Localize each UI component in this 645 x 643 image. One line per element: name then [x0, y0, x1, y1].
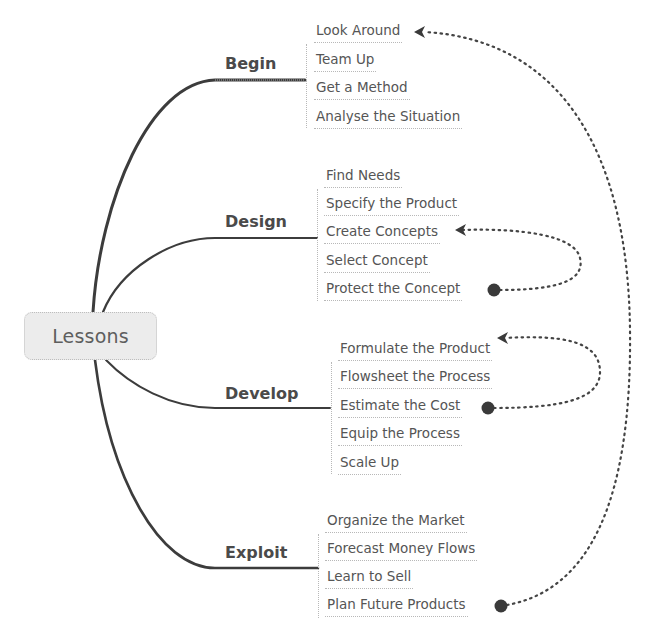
arrowhead-icon [497, 332, 508, 344]
topic-learn-to-sell[interactable]: Learn to Sell [325, 567, 413, 589]
topic-analyse-situation[interactable]: Analyse the Situation [314, 107, 462, 129]
topic-get-a-method[interactable]: Get a Method [314, 78, 410, 100]
arrowhead-icon [414, 26, 425, 38]
topic-team-up[interactable]: Team Up [314, 50, 376, 72]
root-label: Lessons [52, 325, 129, 347]
branch-develop[interactable]: Develop [225, 384, 298, 403]
topic-specify-product[interactable]: Specify the Product [324, 194, 459, 216]
relationship-start-dot [495, 600, 508, 613]
branch-exploit[interactable]: Exploit [225, 543, 287, 562]
relationship-develop-loop [494, 337, 600, 408]
relationship-start-dot [482, 402, 495, 415]
bracket-design [317, 189, 318, 301]
bracket-exploit [318, 534, 319, 618]
relationship-start-dot [488, 284, 501, 297]
topic-look-around[interactable]: Look Around [314, 21, 402, 43]
bracket-develop [331, 362, 332, 474]
topic-flowsheet-process[interactable]: Flowsheet the Process [338, 367, 492, 389]
topic-protect-concept[interactable]: Protect the Concept [324, 279, 462, 301]
branch-design[interactable]: Design [225, 212, 287, 231]
relationship-design-loop [462, 230, 581, 290]
topic-forecast-money-flows[interactable]: Forecast Money Flows [325, 539, 477, 561]
topic-formulate-product[interactable]: Formulate the Product [338, 339, 492, 361]
root-node[interactable]: Lessons [24, 312, 157, 360]
connector-design [103, 238, 317, 312]
topic-select-concept[interactable]: Select Concept [324, 251, 430, 273]
topic-scale-up[interactable]: Scale Up [338, 453, 401, 475]
topic-find-needs[interactable]: Find Needs [324, 166, 402, 188]
topic-organize-market[interactable]: Organize the Market [325, 511, 467, 533]
topic-equip-process[interactable]: Equip the Process [338, 424, 462, 446]
branch-begin[interactable]: Begin [225, 54, 276, 73]
bracket-begin [306, 44, 307, 128]
topic-estimate-cost[interactable]: Estimate the Cost [338, 396, 462, 418]
topic-plan-future-products[interactable]: Plan Future Products [325, 595, 468, 617]
topic-create-concepts[interactable]: Create Concepts [324, 222, 440, 244]
